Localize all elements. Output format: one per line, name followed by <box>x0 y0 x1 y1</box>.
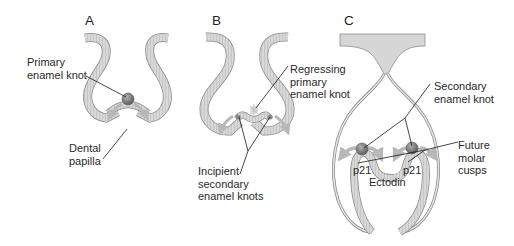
panel-c-signal-arrow-1 <box>342 148 356 156</box>
label-regressing-primary-enamel-knot: Regressing primary enamel knot <box>290 63 350 101</box>
label-p21-left: p21 <box>353 164 371 177</box>
panel-label-c: C <box>344 13 354 28</box>
panel-b-tooth-germ <box>204 37 290 174</box>
panel-label-b: B <box>212 13 221 28</box>
tooth-development-diagram: A B C Primary enamel knot Dental papilla… <box>0 0 514 246</box>
panel-c-tooth-germ <box>333 34 458 232</box>
panel-c-secondary-knot-left <box>356 143 368 155</box>
label-dental-papilla: Dental papilla <box>69 142 101 167</box>
label-p21-right: p21 <box>403 164 421 177</box>
label-secondary-enamel-knot: Secondary enamel knot <box>434 80 494 105</box>
label-ectodin: Ectodin <box>369 176 406 189</box>
panel-a-tooth-germ <box>85 38 168 159</box>
diagram-artwork <box>0 0 514 246</box>
label-primary-enamel-knot: Primary enamel knot <box>27 56 87 81</box>
panel-label-a: A <box>85 13 94 28</box>
panel-b-regressing-knot <box>250 104 258 116</box>
leader-dental-papilla <box>103 129 127 159</box>
label-future-molar-cusps: Future molar cusps <box>458 139 490 177</box>
panel-a-primary-enamel-knot <box>122 93 134 105</box>
label-incipient-secondary-enamel-knots: Incipient secondary enamel knots <box>198 165 263 203</box>
leader-secondary-enamel-knot <box>364 118 412 148</box>
panel-c-dental-lamina <box>340 34 425 74</box>
